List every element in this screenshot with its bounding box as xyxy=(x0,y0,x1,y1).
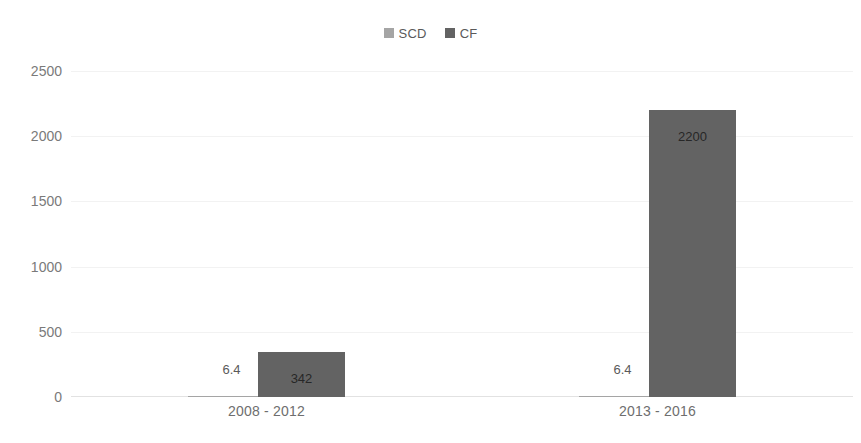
legend-swatch-scd xyxy=(384,28,394,38)
legend-label-scd: SCD xyxy=(399,27,427,40)
y-axis-tick-2500: 2500 xyxy=(31,64,62,78)
legend-entry-scd[interactable]: SCD xyxy=(384,27,427,40)
x-axis-category-2013-2016: 2013 - 2016 xyxy=(462,404,853,428)
x-axis-category-2008-2012: 2008 - 2012 xyxy=(71,404,462,428)
bar-groups: 6.4 342 6.4 2200 xyxy=(71,71,853,397)
y-axis-tick-1000: 1000 xyxy=(31,260,62,274)
legend-label-cf: CF xyxy=(460,27,478,40)
y-axis-tick-1500: 1500 xyxy=(31,194,62,208)
bar-group-2013-2016: 6.4 2200 xyxy=(462,71,853,397)
plot-area: 6.4 342 6.4 2200 xyxy=(71,71,853,397)
legend-entry-cf[interactable]: CF xyxy=(445,27,478,40)
y-axis: 2500 2000 1500 1000 500 0 xyxy=(0,71,62,397)
x-axis: 2008 - 2012 2013 - 2016 xyxy=(71,404,853,428)
bar-cf-2013-2016[interactable]: 2200 xyxy=(649,110,736,397)
y-axis-tick-500: 500 xyxy=(39,325,62,339)
bar-chart: SCD CF 2500 2000 1500 1000 500 0 6. xyxy=(0,0,861,443)
chart-legend: SCD CF xyxy=(0,24,861,42)
bar-label-cf-2008-2012: 342 xyxy=(258,372,345,385)
bar-group-2008-2012: 6.4 342 xyxy=(71,71,462,397)
y-axis-tick-2000: 2000 xyxy=(31,129,62,143)
bar-label-cf-2013-2016: 2200 xyxy=(649,130,736,143)
bar-cf-2008-2012[interactable]: 342 xyxy=(258,352,345,397)
legend-swatch-cf xyxy=(445,28,455,38)
y-axis-tick-0: 0 xyxy=(54,390,62,404)
